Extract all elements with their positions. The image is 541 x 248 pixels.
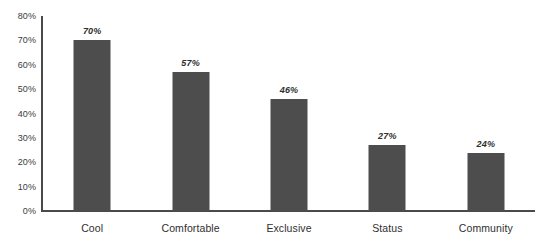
- plot-area: 70% 57% 46% 27% 24%: [43, 16, 535, 211]
- bar-value-label: 27%: [378, 131, 397, 141]
- x-axis-tick-label: Cool: [81, 222, 103, 234]
- y-axis-tick-label: 30%: [0, 133, 36, 142]
- y-axis-tick-label: 0%: [0, 207, 36, 216]
- bar-slot: 70%: [43, 16, 141, 211]
- bar-slot: 46%: [240, 16, 338, 211]
- x-axis-tick-label: Status: [372, 222, 402, 234]
- bar[interactable]: [270, 99, 307, 211]
- y-axis-tick-label: 80%: [0, 12, 36, 21]
- bar-slot: 27%: [338, 16, 436, 211]
- bar-value-label: 57%: [181, 58, 200, 68]
- x-axis-tick-label: Exclusive: [266, 222, 311, 234]
- x-axis-tick-labels: Cool Comfortable Exclusive Status Commun…: [43, 222, 535, 242]
- y-axis-tick-label: 60%: [0, 60, 36, 69]
- bar[interactable]: [369, 145, 406, 211]
- bar[interactable]: [172, 72, 209, 211]
- y-axis-tick-label: 40%: [0, 109, 36, 118]
- bar-slot: 24%: [437, 16, 535, 211]
- x-axis-tick-label: Comfortable: [161, 222, 219, 234]
- y-axis-tick-labels: 80% 70% 60% 50% 40% 30% 20% 10% 0%: [0, 16, 36, 211]
- x-axis-tick-label: Community: [459, 222, 513, 234]
- bar[interactable]: [467, 153, 504, 212]
- bar-chart: 80% 70% 60% 50% 40% 30% 20% 10% 0% 70% 5…: [0, 0, 541, 248]
- y-axis-tick-label: 70%: [0, 36, 36, 45]
- y-axis-tick-label: 20%: [0, 158, 36, 167]
- bar-value-label: 46%: [280, 85, 299, 95]
- bar-value-label: 24%: [476, 139, 495, 149]
- bar[interactable]: [74, 40, 111, 211]
- y-axis-tick-label: 10%: [0, 182, 36, 191]
- bar-slot: 57%: [141, 16, 239, 211]
- bar-value-label: 70%: [83, 26, 102, 36]
- y-axis-tick-label: 50%: [0, 85, 36, 94]
